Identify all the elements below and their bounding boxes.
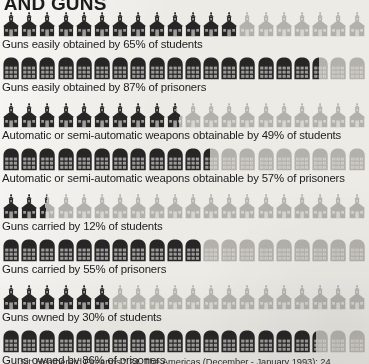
prison-icon [148,236,166,263]
row-label: Automatic or semi-automatic weapons obta… [0,172,369,185]
schoolhouse-icon [20,11,38,38]
schoolhouse-icon [238,284,256,311]
prison-icon [75,145,93,172]
prison-icon [275,145,293,172]
row-label: Guns easily obtained by 65% of students [0,38,369,51]
schoolhouse-icon [202,193,220,220]
prison-icon [111,145,129,172]
prison-icon [220,236,238,263]
schoolhouse-icon [111,11,129,38]
prison-icon [57,236,75,263]
schoolhouse-icon [166,284,184,311]
schoolhouse-icon [329,11,347,38]
schoolhouse-icon [293,284,311,311]
schoolhouse-icon [129,11,147,38]
schoolhouse-icon [348,11,366,38]
prison-icon [293,236,311,263]
prison-icon [238,54,256,81]
schoolhouse-icon [93,102,111,129]
prison-icon [20,54,38,81]
prison-icon [38,54,56,81]
pictogram-row: Automatic or semi-automatic weapons obta… [0,102,369,142]
prison-icon [293,327,311,354]
prison-icon [184,54,202,81]
prison-icon [329,145,347,172]
prison-icon [93,327,111,354]
schoolhouse-icon [329,102,347,129]
prison-icon [238,236,256,263]
schoolhouse-icon [75,102,93,129]
prison-icon [275,54,293,81]
prison-icon [184,236,202,263]
prison-icon [238,145,256,172]
schoolhouse-icon [20,102,38,129]
schoolhouse-icon [148,11,166,38]
schoolhouse-icon [220,11,238,38]
pictogram-row: Guns easily obtained by 65% of students [0,11,369,51]
prison-icon [238,327,256,354]
schoolhouse-icon [184,193,202,220]
prison-icon [257,236,275,263]
prison-icon [129,54,147,81]
prison-icon [311,236,329,263]
prison-icon [311,145,329,172]
schoolhouse-icon [93,193,111,220]
prison-icon [166,145,184,172]
prison-icon [111,327,129,354]
prison-icon [202,236,220,263]
schoolhouse-icon [2,102,20,129]
schoolhouse-icon [220,102,238,129]
pictogram-row: Automatic or semi-automatic weapons obta… [0,145,369,185]
schoolhouse-icon [348,193,366,220]
prison-icon [293,54,311,81]
icon-strip [0,236,369,263]
prison-icon [220,54,238,81]
schoolhouse-icon [148,284,166,311]
schoolhouse-icon [184,284,202,311]
schoolhouse-icon [257,284,275,311]
prison-icon [202,54,220,81]
prison-icon [166,54,184,81]
prison-icon [129,236,147,263]
prison-icon [148,145,166,172]
schoolhouse-icon [38,11,56,38]
row-label: Automatic or semi-automatic weapons obta… [0,129,369,142]
prison-icon [166,236,184,263]
prison-icon [75,327,93,354]
schoolhouse-icon [75,11,93,38]
schoolhouse-icon [111,193,129,220]
schoolhouse-icon [220,193,238,220]
schoolhouse-icon [202,11,220,38]
prison-icon [57,54,75,81]
row-label: Guns carried by 12% of students [0,220,369,233]
schoolhouse-icon [57,193,75,220]
icon-strip [0,54,369,81]
schoolhouse-icon [202,102,220,129]
schoolhouse-icon [311,193,329,220]
prison-icon [38,236,56,263]
prison-icon [111,236,129,263]
schoolhouse-icon [238,11,256,38]
schoolhouse-icon [166,102,184,129]
schoolhouse-icon [57,284,75,311]
icon-strip [0,327,369,354]
prison-icon [129,145,147,172]
schoolhouse-icon [329,284,347,311]
pictogram-row: Guns carried by 55% of prisoners [0,236,369,276]
schoolhouse-icon [238,193,256,220]
prison-icon [93,145,111,172]
prison-icon [93,236,111,263]
schoolhouse-icon [257,102,275,129]
schoolhouse-icon [111,284,129,311]
row-label: Guns carried by 55% of prisoners [0,263,369,276]
prison-icon [2,327,20,354]
icon-strip [0,284,369,311]
schoolhouse-icon [166,11,184,38]
row-label: Guns owned by 30% of students [0,311,369,324]
prison-icon [2,236,20,263]
schoolhouse-icon [38,284,56,311]
prison-icon [2,54,20,81]
prison-icon [57,145,75,172]
schoolhouse-icon [20,284,38,311]
schoolhouse-icon [348,284,366,311]
